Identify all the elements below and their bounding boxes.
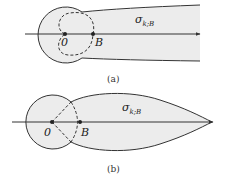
origin-point-b [50, 120, 54, 124]
b-label-a: B [94, 36, 103, 49]
panel-b: 0 B σk;B (b) [12, 93, 213, 174]
caption-a: (a) [107, 74, 119, 84]
origin-label-a: 0 [61, 36, 68, 49]
figure-canvas: 0 B σk;B (a) 0 B σk;B (b) [0, 0, 227, 179]
origin-label-b: 0 [44, 126, 51, 139]
panel-a: 0 B σk;B (a) [25, 5, 200, 84]
caption-b: (b) [107, 164, 120, 174]
b-point-b [78, 120, 82, 124]
b-label-b: B [80, 126, 89, 139]
